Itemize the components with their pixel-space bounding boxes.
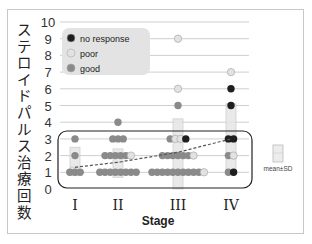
data-point-good [174, 102, 181, 109]
data-point-no-response [227, 85, 234, 92]
data-point-poor [227, 68, 234, 75]
y-tick-label: 10 [41, 15, 55, 30]
legend-label: good [80, 64, 100, 74]
data-point-poor [174, 85, 181, 92]
data-point-no-response [230, 169, 237, 176]
data-point-good [77, 169, 84, 176]
y-tick-label: 2 [44, 149, 51, 164]
y-tick-label: 0 [44, 182, 51, 197]
y-tick-label: 4 [44, 115, 51, 130]
data-point-poor [200, 169, 207, 176]
data-point-good [120, 135, 127, 142]
data-point-poor [190, 152, 197, 159]
data-point-no-response [230, 135, 237, 142]
data-point-no-response [227, 102, 234, 109]
y-tick-label: 8 [44, 48, 51, 63]
legend-marker-no-response-icon [67, 34, 75, 42]
data-point-good [71, 135, 78, 142]
y-tick-label: 1 [44, 165, 51, 180]
data-point-good [133, 169, 140, 176]
data-point-good [114, 119, 121, 126]
data-point-good [71, 152, 78, 159]
y-tick-label: 6 [44, 82, 51, 97]
legend-label: poor [80, 49, 98, 59]
y-tick-label: 5 [44, 99, 51, 114]
legend-marker-good-icon [67, 64, 75, 72]
highlight-box [58, 131, 252, 188]
y-tick-label: 3 [44, 132, 51, 147]
legend-label: no response [80, 34, 130, 44]
x-tick-label: III [170, 197, 187, 213]
scatter-chart: 012345678910no responsepoorgoodIIIIIIIVS… [0, 0, 312, 244]
data-point-poor [174, 35, 181, 42]
x-axis-label: Stage [142, 214, 175, 228]
x-tick-label: IV [223, 197, 240, 213]
mean-trend-line [75, 139, 231, 167]
y-tick-label: 9 [44, 32, 51, 47]
legend-marker-poor-icon [67, 49, 75, 57]
x-tick-label: II [112, 197, 123, 213]
data-point-poor [230, 152, 237, 159]
mean-sd-legend-box [273, 145, 283, 162]
data-point-poor [127, 152, 134, 159]
x-tick-label: I [72, 197, 78, 213]
mean-sd-legend-label: mean±SD [264, 165, 293, 172]
y-tick-label: 7 [44, 65, 51, 80]
data-point-no-response [182, 135, 189, 142]
